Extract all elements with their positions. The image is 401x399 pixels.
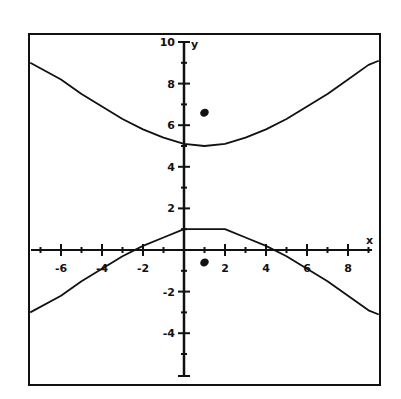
curve-upper-branch	[30, 61, 379, 146]
curves	[30, 61, 379, 315]
y-tick-label: -4	[163, 327, 176, 340]
y-tick-label: 2	[167, 202, 175, 215]
y-axis-label: y	[191, 38, 198, 51]
y-tick-label: 4	[167, 161, 175, 174]
x-tick-label: 4	[262, 262, 270, 275]
x-tick-label: -6	[55, 262, 68, 275]
x-tick-label: -4	[96, 262, 109, 275]
y-tick-label: 10	[160, 36, 176, 49]
x-tick-label: 2	[221, 262, 229, 275]
focus-point	[199, 107, 211, 118]
x-tick-label: -2	[137, 262, 149, 275]
hyperbola-plot: -6-4-22468108642-2-4 x y	[0, 0, 401, 399]
tick-labels: -6-4-22468108642-2-4	[55, 36, 352, 340]
plot-frame	[29, 34, 380, 385]
axes	[31, 42, 372, 376]
y-tick-label: -2	[163, 286, 175, 299]
x-tick-label: 6	[303, 262, 311, 275]
y-tick-label: 8	[167, 78, 175, 91]
focus-points	[199, 107, 211, 268]
curve-lower-branch	[30, 229, 379, 314]
focus-point	[199, 257, 211, 268]
y-tick-label: 6	[167, 119, 175, 132]
x-tick-label: 8	[344, 262, 352, 275]
x-axis-label: x	[366, 234, 373, 247]
